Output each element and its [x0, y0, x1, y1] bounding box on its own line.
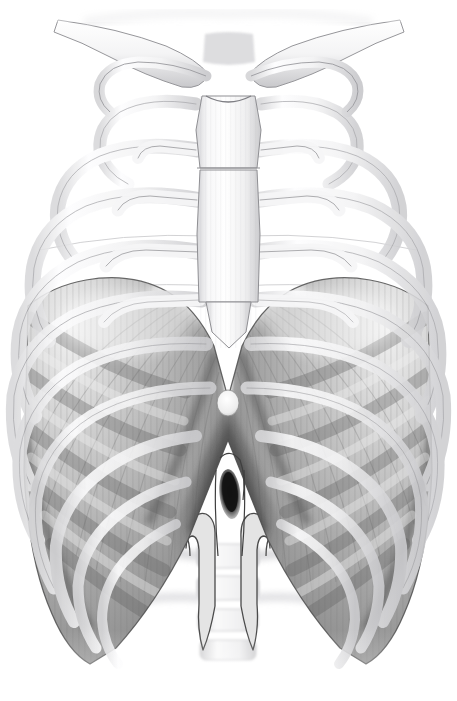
- bottom-fade: [0, 630, 457, 701]
- sternoclavicular-shadow: [203, 32, 255, 65]
- caval-opening: [217, 390, 239, 416]
- sternum: [196, 96, 261, 348]
- top-fade: [0, 0, 457, 22]
- anatomy-illustration: Anterior view of the thoracic cage with …: [0, 0, 457, 701]
- thorax-diaphragm-figure: Anterior view of the thoracic cage with …: [0, 0, 457, 701]
